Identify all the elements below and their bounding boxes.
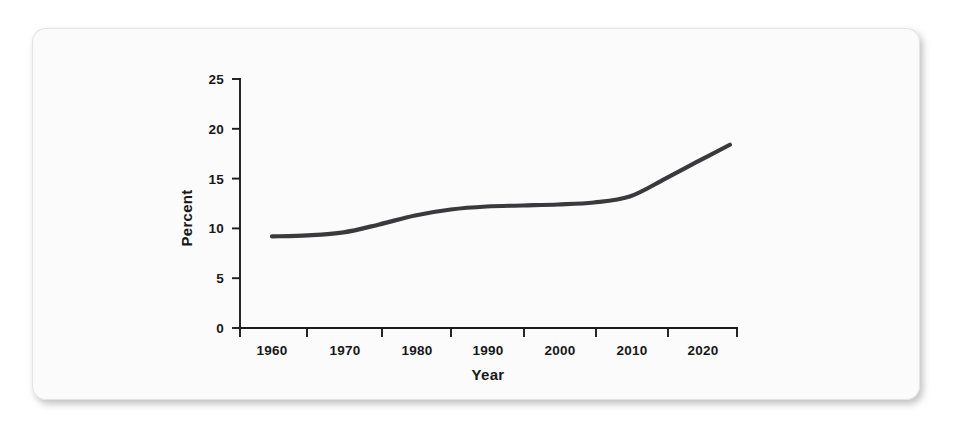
y-axis-title: Percent [178, 189, 195, 246]
y-tick-label: 0 [216, 321, 224, 336]
chart-plot-area: Percent Year 0 5 [32, 28, 920, 400]
y-tick-label: 25 [209, 72, 225, 87]
x-tick-label: 1960 [257, 343, 288, 358]
figure-card: Percent Year 0 5 [32, 28, 920, 400]
y-tick-label: 15 [209, 172, 225, 187]
y-axis-ticks [232, 79, 240, 328]
x-tick-label: 2000 [545, 343, 576, 358]
x-axis-ticks [240, 328, 737, 337]
data-series-line [272, 145, 730, 237]
y-tick-label: 10 [209, 221, 224, 236]
x-tick-label: 1990 [473, 343, 504, 358]
screenshot-page: Percent Year 0 5 [0, 0, 953, 435]
x-axis-tick-labels: 1960 1970 1980 1990 2000 2010 2020 [257, 343, 719, 358]
y-axis-tick-labels: 0 5 10 15 20 25 [209, 72, 225, 336]
x-tick-label: 2020 [688, 343, 719, 358]
x-tick-label: 2010 [617, 343, 648, 358]
x-tick-label: 1980 [402, 343, 433, 358]
x-tick-label: 1970 [330, 343, 361, 358]
y-tick-label: 20 [209, 122, 224, 137]
x-axis-title: Year [472, 366, 505, 383]
y-tick-label: 5 [216, 271, 224, 286]
line-chart: Percent Year 0 5 [32, 28, 920, 400]
